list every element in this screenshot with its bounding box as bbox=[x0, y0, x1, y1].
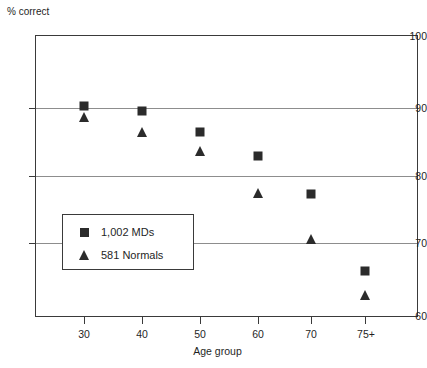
data-point-mds-30 bbox=[80, 101, 89, 110]
x-tick-label-70: 70 bbox=[305, 328, 317, 340]
legend-entry-mds: 1,002 MDs bbox=[76, 225, 154, 239]
chart-container: % correct 100 90 80 70 60 30 40 50 60 70… bbox=[0, 0, 427, 368]
legend-label-mds: 1,002 MDs bbox=[101, 226, 154, 238]
x-tick-label-50: 50 bbox=[194, 328, 206, 340]
y-tick-label-90: 90 bbox=[397, 102, 427, 114]
data-point-normals-40 bbox=[137, 127, 147, 137]
data-point-mds-50 bbox=[196, 127, 205, 136]
data-point-mds-75+ bbox=[361, 267, 370, 276]
legend: 1,002 MDs 581 Normals bbox=[62, 214, 194, 270]
x-tick-label-60: 60 bbox=[252, 328, 264, 340]
data-point-normals-60 bbox=[253, 188, 263, 198]
y-tick-label-60: 60 bbox=[397, 310, 427, 322]
legend-label-normals: 581 Normals bbox=[101, 249, 163, 261]
x-tick-mark-30 bbox=[84, 317, 85, 324]
y-tick-mark-80 bbox=[29, 176, 35, 177]
x-tick-label-40: 40 bbox=[136, 328, 148, 340]
gridline-80 bbox=[36, 176, 417, 177]
data-point-normals-70 bbox=[306, 234, 316, 244]
triangle-marker-icon bbox=[76, 250, 92, 260]
y-tick-label-100: 100 bbox=[397, 30, 427, 42]
square-marker-icon bbox=[76, 228, 92, 237]
data-point-normals-75+ bbox=[360, 290, 370, 300]
x-axis-label: Age group bbox=[193, 345, 241, 357]
x-tick-mark-40 bbox=[142, 317, 143, 324]
y-tick-mark-90 bbox=[29, 108, 35, 109]
y-tick-label-80: 80 bbox=[397, 170, 427, 182]
y-tick-mark-70 bbox=[29, 243, 35, 244]
data-point-normals-30 bbox=[79, 112, 89, 122]
data-point-normals-50 bbox=[195, 146, 205, 156]
x-tick-label-75plus: 75+ bbox=[357, 328, 375, 340]
x-tick-mark-60 bbox=[258, 317, 259, 324]
data-point-mds-70 bbox=[307, 190, 316, 199]
legend-entry-normals: 581 Normals bbox=[76, 248, 163, 262]
x-tick-mark-50 bbox=[200, 317, 201, 324]
gridline-90 bbox=[36, 108, 417, 109]
x-axis-title-row: Age group bbox=[0, 345, 427, 357]
x-tick-mark-75plus bbox=[365, 317, 366, 324]
data-point-mds-60 bbox=[254, 151, 263, 160]
y-tick-label-70: 70 bbox=[397, 237, 427, 249]
x-tick-label-30: 30 bbox=[78, 328, 90, 340]
y-axis-label: % correct bbox=[7, 6, 49, 17]
x-tick-mark-70 bbox=[311, 317, 312, 324]
data-point-mds-40 bbox=[138, 107, 147, 116]
